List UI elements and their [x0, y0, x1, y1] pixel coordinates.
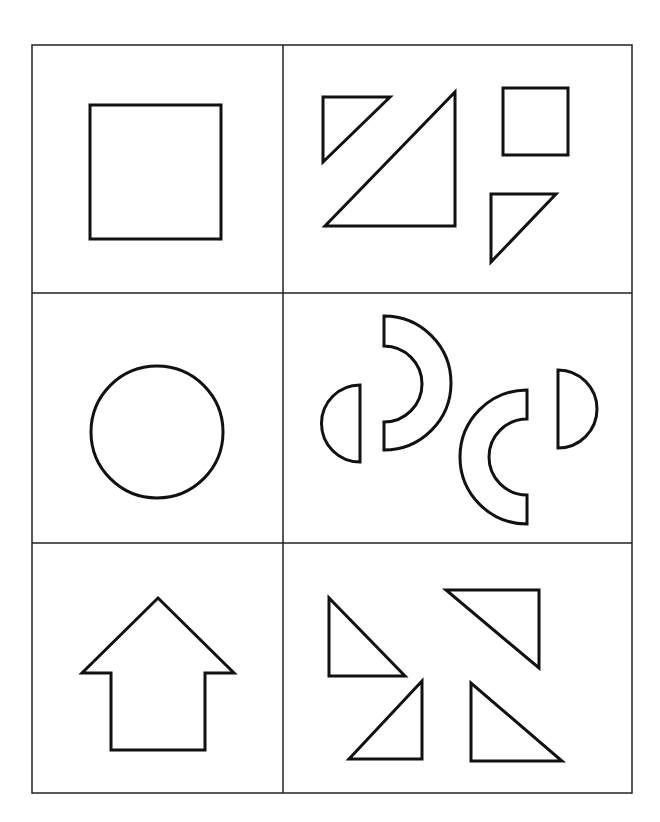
circle-pieces: [321, 316, 597, 524]
piece-triangle-c: [349, 681, 422, 759]
piece-large-triangle: [325, 92, 455, 226]
piece-arc-right-facing: [384, 316, 451, 450]
piece-small-square: [503, 88, 568, 155]
grid-outer-border: [32, 45, 632, 793]
whole-square-shape: [90, 105, 221, 239]
square-pieces: [323, 88, 568, 262]
whole-up-arrow-shape: [82, 598, 234, 750]
grid: [32, 45, 632, 793]
piece-small-triangle-1: [323, 97, 390, 162]
piece-triangle-d: [471, 683, 562, 761]
piece-arc-left-facing: [460, 390, 527, 524]
piece-triangle-b: [446, 590, 539, 668]
arrow-pieces: [329, 590, 562, 761]
piece-half-disc-right: [558, 370, 597, 448]
piece-small-triangle-2: [491, 194, 556, 262]
piece-triangle-a: [329, 598, 405, 676]
piece-half-disc-left: [321, 385, 360, 462]
whole-circle-shape: [91, 366, 223, 498]
shape-puzzle-figure: [0, 0, 660, 822]
